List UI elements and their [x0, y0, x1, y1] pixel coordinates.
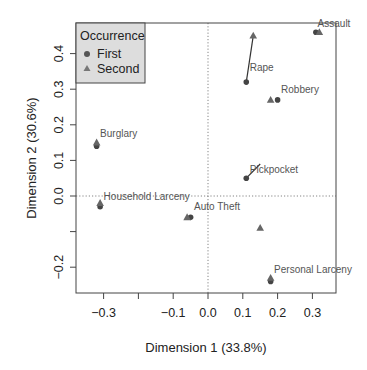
legend-first-label: First: [97, 47, 122, 61]
y-tick-label: 0.0: [52, 187, 66, 204]
y-tick-label: 0.3: [52, 80, 66, 97]
legend-title: Occurrence: [80, 29, 145, 43]
circle-point-icon: [243, 175, 249, 181]
point-label: Burglary: [100, 128, 137, 139]
y-tick-label: −0.2: [52, 255, 66, 280]
arrows-layer: [246, 36, 260, 178]
x-tick-label: −0.3: [91, 306, 116, 320]
legend-second-label: Second: [97, 62, 139, 76]
trajectory-arrow: [246, 36, 253, 82]
y-axis-label: Dimension 2 (30.6%): [24, 97, 39, 218]
x-tick-label: 0.2: [269, 306, 286, 320]
triangle-point-icon: [267, 274, 275, 281]
x-axis-label: Dimension 1 (33.8%): [145, 340, 266, 355]
x-tick-label: 0.1: [234, 306, 251, 320]
x-axis: −0.3−0.10.00.10.20.3: [91, 293, 321, 320]
point-label: Robbery: [281, 84, 319, 95]
x-tick-label: −0.1: [161, 306, 186, 320]
y-axis: −0.20.00.10.20.30.4: [52, 45, 76, 280]
triangle-point-icon: [93, 139, 101, 146]
triangle-point-icon: [256, 224, 264, 231]
y-tick-label: 0.2: [52, 116, 66, 133]
circle-marker-icon: [84, 51, 90, 57]
x-tick-label: 0.0: [199, 306, 216, 320]
point-label: Personal Larceny: [274, 264, 352, 275]
circle-point-icon: [275, 97, 281, 103]
circle-point-icon: [243, 79, 249, 85]
x-tick-label: 0.3: [304, 306, 321, 320]
point-label: Household Larceny: [104, 191, 190, 202]
y-tick-label: 0.4: [52, 45, 66, 62]
triangle-point-icon: [249, 32, 257, 39]
point-label: Pickpocket: [250, 164, 299, 175]
scatter-chart: AssaultRapeRobberyBurglaryPickpocketHous…: [0, 0, 367, 370]
triangle-point-icon: [267, 96, 275, 103]
point-label: Auto Theft: [194, 201, 240, 212]
legend: Occurrence First Second: [76, 23, 145, 83]
point-label: Rape: [250, 62, 274, 73]
y-tick-label: 0.1: [52, 152, 66, 169]
